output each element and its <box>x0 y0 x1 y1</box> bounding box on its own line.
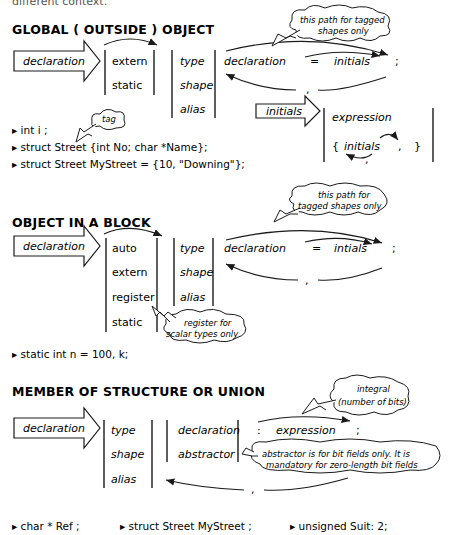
member-colon: : <box>257 424 261 437</box>
section-member: MEMBER OF STRUCTURE OR UNION integral (n… <box>12 375 440 532</box>
block-loop-comma: , <box>305 274 309 287</box>
block-type-shape: shape <box>180 266 213 279</box>
example-1: ▸ int i ; <box>12 124 47 136</box>
abstractor-note-line-2: mandatory for zero-length bit fields <box>266 460 418 470</box>
bits-note-line-2: (number of bits) <box>338 397 407 407</box>
member-semicolon: ; <box>356 424 360 437</box>
member-type-shape: shape <box>111 448 144 461</box>
member-example-3: ▸ unsigned Suit: 2; <box>290 520 388 532</box>
brace-close: } <box>414 140 421 153</box>
block-type-alias: alias <box>180 291 206 304</box>
lightning-pointer-icon <box>272 30 300 46</box>
initials-comma: , <box>398 140 402 153</box>
type-type: type <box>180 55 205 68</box>
initials-opt-arrow-icon <box>380 134 398 140</box>
tag-pointer-icon <box>76 124 96 142</box>
block-eq: = <box>312 242 321 255</box>
member-abstractor: abstractor <box>178 448 236 461</box>
initials-expression: expression <box>332 111 392 124</box>
member-type-alias: alias <box>111 473 137 486</box>
example-2: ▸ struct Street {int No; char *Name}; <box>12 141 207 153</box>
loop-arrow-right-icon <box>318 77 386 90</box>
block-type-type: type <box>180 242 205 255</box>
block-init-label: intials <box>334 242 367 255</box>
syntax-diagram: different context. GLOBAL ( OUTSIDE ) OB… <box>0 0 452 535</box>
note-line-1: this path for tagged <box>300 15 385 25</box>
loop-comma: , <box>306 83 310 96</box>
decl-label: declaration <box>224 55 286 68</box>
register-note-line-2: scalar types only <box>166 329 239 339</box>
section-title-member: MEMBER OF STRUCTURE OR UNION <box>12 384 265 399</box>
member-entry-label: declaration <box>23 422 85 435</box>
bits-pointer-icon <box>302 398 336 414</box>
block-loop-left-icon <box>226 264 298 280</box>
member-example-2: ▸ struct Street MyStreet ; <box>120 520 252 532</box>
block-semicolon: ; <box>392 242 396 255</box>
bits-note-cloud-icon <box>330 375 409 415</box>
block-entry-label: declaration <box>23 240 85 253</box>
section-block: this path for tagged shapes only OBJECT … <box>12 183 396 360</box>
block-note-line-1: this path for <box>318 190 370 200</box>
block-example-1: ▸ static int n = 100, k; <box>12 348 128 360</box>
initials-recursive: initials <box>344 140 380 153</box>
storage-register: register <box>112 291 155 304</box>
member-decl: declaration <box>178 424 240 437</box>
storage-extern: extern <box>112 55 147 68</box>
member-example-1: ▸ char * Ref ; <box>12 520 80 532</box>
member-skip-arrow-icon <box>258 417 350 422</box>
semicolon: ; <box>395 55 399 68</box>
entry-label: declaration <box>23 55 85 68</box>
initials-entry-label: initials <box>266 105 302 118</box>
brace-open: { <box>332 140 339 153</box>
storage-static: static <box>112 316 142 329</box>
skip-arrow-icon <box>104 39 157 45</box>
storage-static: static <box>112 79 142 92</box>
eq-sign: = <box>310 55 319 68</box>
member-type-type: type <box>111 424 136 437</box>
block-decl-label: declaration <box>224 242 286 255</box>
tag-note: tag <box>102 114 117 124</box>
loop-arrow-left-icon <box>226 74 296 90</box>
member-loop-comma: , <box>251 483 255 496</box>
block-loop-right-icon <box>318 268 382 280</box>
section-title-global: GLOBAL ( OUTSIDE ) OBJECT <box>12 22 215 37</box>
block-lightning-icon <box>274 208 300 222</box>
note-line-2: shapes only <box>318 26 370 36</box>
top-fragment: different context. <box>12 0 107 8</box>
initials-loop-comma: , <box>365 153 369 166</box>
storage-auto: auto <box>112 242 137 255</box>
storage-extern: extern <box>112 266 147 279</box>
block-note-line-2: tagged shapes only <box>298 201 382 211</box>
bits-note-line-1: integral <box>357 384 390 394</box>
abstractor-note-line-1: abstractor is for bit fields only. It is <box>262 449 410 459</box>
section-global: GLOBAL ( OUTSIDE ) OBJECT declaration ex… <box>12 5 433 170</box>
register-note-line-1: register for <box>184 318 232 328</box>
section-title-block: OBJECT IN A BLOCK <box>12 215 152 230</box>
member-loop-left-icon <box>166 480 244 490</box>
example-3: ▸ struct Street MyStreet = {10, "Downing… <box>12 158 245 170</box>
init-label: initials <box>334 55 370 68</box>
type-alias: alias <box>180 103 206 116</box>
member-expression: expression <box>276 424 336 437</box>
type-shape: shape <box>180 79 213 92</box>
member-loop-right-icon <box>264 478 348 490</box>
